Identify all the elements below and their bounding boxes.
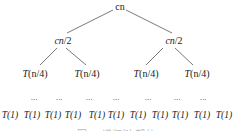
ellipsis: ... bbox=[174, 92, 181, 102]
node-text: (n bbox=[139, 68, 147, 79]
leaf-node: T(1) bbox=[24, 109, 40, 121]
ellipsis: ... bbox=[200, 92, 207, 102]
node-text: (n bbox=[190, 68, 198, 79]
recursion-tree-diagram: cn cn/2 cn/2 T(n/4) T(n/4) T(n/4) T(n/4)… bbox=[0, 0, 235, 131]
level2-node-3: T(n/4) bbox=[133, 68, 158, 80]
leaf-node: T(1) bbox=[108, 109, 124, 121]
node-text: /4) bbox=[88, 68, 99, 79]
figure-caption: 图 — 递归树(部分) bbox=[77, 126, 159, 131]
leaf-node: T(1) bbox=[216, 109, 232, 121]
node-text: /2 bbox=[175, 35, 183, 46]
leaf-node: T(1) bbox=[89, 109, 105, 121]
leaf-node: T(1) bbox=[45, 109, 61, 121]
ellipsis: ... bbox=[113, 92, 120, 102]
ellipsis: ... bbox=[56, 92, 63, 102]
level2-node-2: T(n/4) bbox=[74, 68, 99, 80]
level1-node-left: cn/2 bbox=[54, 35, 71, 47]
node-text: (n bbox=[28, 68, 36, 79]
node-text: (n bbox=[80, 68, 88, 79]
leaf-node: T(1) bbox=[2, 109, 18, 121]
leaf-node: T(1) bbox=[194, 109, 210, 121]
level1-node-right: cn/2 bbox=[165, 35, 182, 47]
leaf-node: T(1) bbox=[152, 109, 168, 121]
leaf-node: T(1) bbox=[130, 109, 146, 121]
ellipsis: ... bbox=[86, 92, 93, 102]
ellipsis: ... bbox=[145, 92, 152, 102]
leaf-node: T(1) bbox=[172, 109, 188, 121]
node-text: /4) bbox=[36, 68, 47, 79]
node-text: /4) bbox=[147, 68, 158, 79]
node-text: /2 bbox=[64, 35, 72, 46]
level2-node-1: T(n/4) bbox=[22, 68, 47, 80]
ellipsis: ... bbox=[31, 92, 38, 102]
level2-node-4: T(n/4) bbox=[184, 68, 209, 80]
leaf-node: T(1) bbox=[65, 109, 81, 121]
node-text: /4) bbox=[198, 68, 209, 79]
root-node: cn bbox=[115, 1, 124, 13]
